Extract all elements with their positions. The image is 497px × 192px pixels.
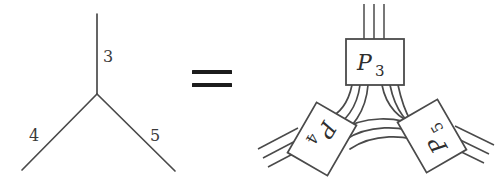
edge-label-3: 3 [103, 47, 113, 66]
p3-external-legs [364, 4, 384, 40]
box-p4[interactable]: P 4 [288, 102, 357, 175]
box-p3-letter: P [356, 50, 373, 75]
equals-sign [192, 70, 232, 87]
box-p5[interactable]: P 5 [398, 99, 467, 172]
edge-label-5: 5 [150, 126, 160, 145]
figure-root: 3 4 5 [0, 0, 497, 192]
trivalent-vertex: 3 4 5 [22, 14, 175, 171]
box-p3[interactable]: P 3 [346, 39, 404, 85]
equals-bar-bottom [192, 83, 232, 87]
box-p3-subscript: 3 [375, 62, 385, 80]
vertex-leg-5-line [97, 94, 175, 171]
figure-canvas: 3 4 5 [0, 0, 497, 192]
edge-label-4: 4 [29, 126, 39, 145]
equals-bar-top [192, 70, 232, 74]
projector-network: P 3 P 4 P 5 [258, 4, 494, 176]
